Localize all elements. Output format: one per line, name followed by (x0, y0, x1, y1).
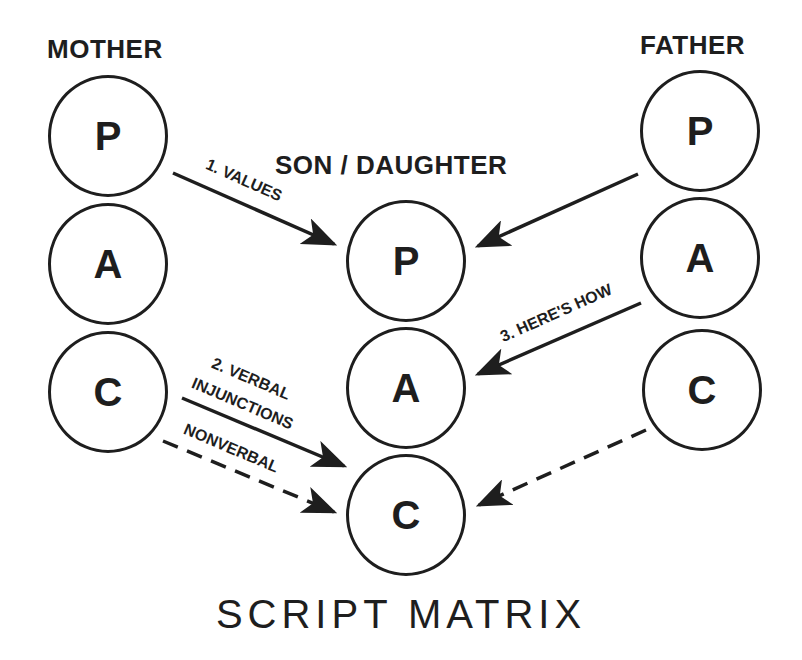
nonverbal-father-arrow (479, 430, 646, 505)
father-parent-arrow (478, 174, 638, 246)
diagram-title: SCRIPT MATRIX (0, 592, 802, 637)
script-matrix-diagram: MOTHER FATHER SON / DAUGHTER P A C P A C… (0, 0, 802, 660)
arrows-layer (0, 0, 802, 660)
